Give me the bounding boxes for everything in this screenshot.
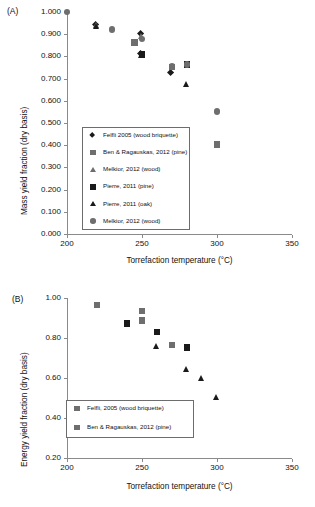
x-tick [217, 235, 218, 238]
y-tick-label: 1.00 [23, 293, 61, 302]
x-tick [67, 235, 68, 238]
y-tick [64, 167, 67, 168]
data-point [183, 81, 189, 87]
legend-label: Felfli 2005 (wood briquette) [103, 131, 178, 138]
y-tick [64, 378, 67, 379]
legend-label: Pierre, 2011 (oak) [103, 200, 152, 207]
panel-a-legend: Felfli 2005 (wood briquette)Ben & Ragaus… [82, 127, 190, 230]
panel-a-x-axis-label: Torrefaction temperature (°C) [67, 256, 292, 265]
data-point [154, 329, 161, 336]
panel-a-tag: (A) [7, 6, 18, 16]
y-tick [64, 56, 67, 57]
legend-marker-icon [74, 406, 80, 412]
y-tick [64, 34, 67, 35]
data-point [214, 141, 221, 148]
panel-b: (B) Energy yield fraction (dry basis) 0.… [0, 272, 315, 507]
x-tick-label: 350 [276, 463, 308, 472]
data-point [139, 317, 146, 324]
x-tick-label: 300 [201, 239, 233, 248]
panel-b-y-axis-label: Energy yield fraction (dry basis) [20, 352, 29, 467]
legend-label: Felfli, 2005 (wood briquette) [87, 404, 164, 411]
legend-item: Melkior, 2012 (wood) [83, 162, 189, 179]
data-point [214, 108, 220, 114]
data-point [131, 39, 138, 46]
y-tick-label: 0.500 [23, 118, 61, 127]
data-point [139, 308, 146, 315]
data-point [184, 61, 190, 67]
figure-container: (A) Mass yield fraction (dry basis) 0.00… [0, 0, 315, 507]
y-tick-label: 0.60 [23, 373, 61, 382]
data-point [124, 320, 131, 327]
y-tick-label: 0.900 [23, 29, 61, 38]
data-point [169, 342, 176, 349]
legend-item: Melkior, 2012 (wood) [83, 214, 189, 231]
legend-label: Pierre, 2011 (pine) [103, 182, 154, 189]
legend-label: Melkior, 2012 (wood) [103, 217, 160, 224]
panel-b-x-axis-label: Torrefaction temperature (°C) [67, 482, 292, 491]
x-tick [292, 235, 293, 238]
panel-b-tag: (B) [12, 294, 23, 304]
x-tick-label: 200 [51, 463, 83, 472]
data-point [64, 9, 70, 15]
legend-label: Ben & Ragauskas, 2012 (pine) [103, 148, 187, 155]
x-tick [142, 235, 143, 238]
legend-label: Ben & Ragauskas, 2012 (pine) [87, 423, 171, 430]
legend-marker-icon [74, 425, 80, 431]
data-point [184, 344, 191, 351]
data-point [183, 366, 189, 372]
y-tick-label: 0.20 [23, 453, 61, 462]
y-tick-label: 0.400 [23, 140, 61, 149]
x-tick [217, 459, 218, 462]
panel-b-legend: Felfli, 2005 (wood briquette)Ben & Ragau… [66, 400, 194, 438]
y-tick [64, 123, 67, 124]
legend-marker-icon [90, 167, 96, 172]
legend-item: Felfli 2005 (wood briquette) [83, 128, 189, 145]
y-tick-label: 0.80 [23, 333, 61, 342]
data-point [138, 52, 144, 58]
y-tick-label: 1.000 [23, 7, 61, 16]
x-tick-label: 250 [126, 239, 158, 248]
y-tick-label: 0.200 [23, 185, 61, 194]
y-tick-label: 0.300 [23, 162, 61, 171]
x-tick [142, 459, 143, 462]
y-tick-label: 0.700 [23, 74, 61, 83]
legend-marker-icon [90, 184, 96, 190]
legend-item: Felfli, 2005 (wood briquette) [67, 401, 193, 420]
data-point [213, 394, 219, 400]
x-axis-line [67, 458, 292, 459]
y-tick-label: 0.800 [23, 51, 61, 60]
x-axis-line [67, 234, 292, 235]
legend-label: Melkior, 2012 (wood) [103, 165, 160, 172]
data-point [93, 23, 99, 29]
y-tick-label: 0.40 [23, 413, 61, 422]
y-tick [64, 79, 67, 80]
y-tick-label: 0.000 [23, 229, 61, 238]
y-tick [64, 298, 67, 299]
y-tick [64, 145, 67, 146]
x-tick-label: 200 [51, 239, 83, 248]
y-tick [64, 212, 67, 213]
data-point [94, 302, 101, 309]
data-point [198, 375, 204, 381]
y-tick-label: 0.100 [23, 207, 61, 216]
y-tick [64, 101, 67, 102]
x-tick-label: 350 [276, 239, 308, 248]
x-tick [292, 459, 293, 462]
data-point [109, 26, 115, 32]
y-tick [64, 338, 67, 339]
legend-item: Ben & Ragauskas, 2012 (pine) [83, 145, 189, 162]
x-tick-label: 250 [126, 463, 158, 472]
legend-marker-icon [90, 150, 96, 156]
legend-item: Pierre, 2011 (pine) [83, 179, 189, 196]
y-tick-label: 0.600 [23, 96, 61, 105]
legend-item: Ben & Ragauskas, 2012 (pine) [67, 420, 193, 439]
legend-marker-icon [90, 201, 96, 206]
y-tick [64, 190, 67, 191]
x-tick [67, 459, 68, 462]
legend-item: Pierre, 2011 (oak) [83, 197, 189, 214]
legend-marker-icon [89, 132, 95, 138]
data-point [153, 343, 159, 349]
data-point [139, 36, 145, 42]
x-tick-label: 300 [201, 463, 233, 472]
y-axis-line [67, 12, 68, 234]
